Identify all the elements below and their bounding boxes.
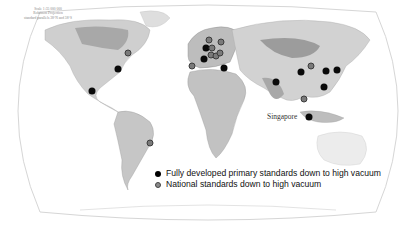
national-standard-marker	[189, 63, 196, 70]
black-dot-icon	[155, 171, 161, 177]
gray-dot-icon	[155, 182, 161, 188]
legend-item-national: National standards down to high vacuum	[155, 179, 381, 190]
city-label-singapore: Singapore	[267, 112, 297, 121]
national-standard-marker	[218, 39, 225, 46]
primary-standard-marker	[298, 69, 305, 76]
world-map	[0, 0, 416, 225]
map-scale-note: Scale 1:35 000 000 Robinson Projection s…	[18, 7, 78, 20]
national-standard-marker	[125, 50, 132, 57]
primary-standard-marker	[115, 66, 122, 73]
primary-standard-marker	[201, 56, 208, 63]
primary-standard-marker	[323, 68, 330, 75]
primary-standard-marker	[273, 79, 280, 86]
map-legend: Fully developed primary standards down t…	[155, 168, 381, 190]
national-standard-marker	[147, 140, 154, 147]
primary-standard-marker	[221, 65, 228, 72]
primary-standard-marker	[334, 67, 341, 74]
australia	[317, 132, 367, 165]
primary-standard-marker	[89, 88, 96, 95]
national-standard-marker	[209, 45, 216, 52]
legend-item-primary: Fully developed primary standards down t…	[155, 168, 381, 179]
national-standard-marker	[308, 63, 315, 70]
national-standard-marker	[217, 50, 224, 57]
primary-standard-marker	[321, 84, 328, 91]
national-standard-marker	[301, 96, 308, 103]
scale-line-3: standard parallels 38°N and 38°S	[18, 16, 78, 20]
primary-standard-marker	[306, 114, 313, 121]
national-standard-marker	[206, 37, 213, 44]
legend-label-primary: Fully developed primary standards down t…	[166, 168, 381, 179]
legend-label-national: National standards down to high vacuum	[166, 179, 321, 190]
